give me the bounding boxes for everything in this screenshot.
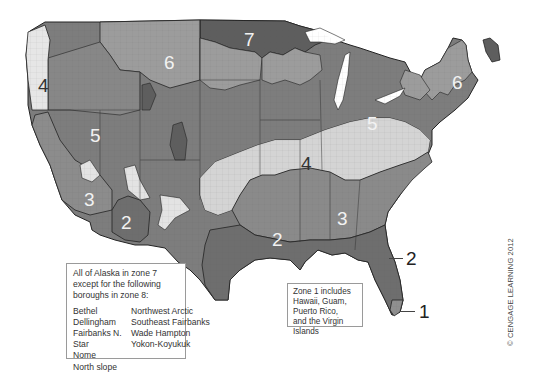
zone-label-5-east: 5 bbox=[367, 114, 378, 133]
callout-label-zone-2: 2 bbox=[406, 249, 417, 268]
borough-item: Dellingham bbox=[73, 317, 131, 328]
zone-label-2-arizona: 2 bbox=[121, 213, 132, 232]
alaska-note-heading-3: boroughs in zone 8: bbox=[73, 290, 179, 301]
borough-list-col-2: Northwest Arctic Southeast Fairbanks Wad… bbox=[131, 306, 210, 373]
zone-label-7-north: 7 bbox=[244, 30, 255, 49]
zone-label-6-west: 6 bbox=[164, 53, 175, 72]
zone-label-4-central: 4 bbox=[301, 154, 312, 173]
borough-item: Southeast Fairbanks bbox=[131, 317, 210, 328]
zone-label-6-northeast: 6 bbox=[452, 73, 463, 92]
borough-item: Yokon-Koyukuk bbox=[131, 339, 210, 350]
borough-item: Bethel bbox=[73, 306, 131, 317]
alaska-note-heading-1: All of Alaska in zone 7 bbox=[73, 268, 179, 279]
zone1-note-line: Puerto Rico, bbox=[293, 307, 357, 317]
borough-item: Northwest Arctic bbox=[131, 306, 210, 317]
borough-item: Fairbanks N. Star bbox=[73, 328, 131, 350]
callout-label-zone-1: 1 bbox=[419, 302, 430, 321]
callout-line-zone-1 bbox=[400, 311, 415, 312]
callout-line-zone-2 bbox=[389, 258, 403, 259]
zone-label-3-southwest: 3 bbox=[84, 190, 95, 209]
zone-label-3-southeast: 3 bbox=[337, 209, 348, 228]
zone-label-2-texas: 2 bbox=[272, 230, 283, 249]
zone-label-5-west: 5 bbox=[90, 126, 101, 145]
zone1-note-box: Zone 1 includes Hawaii, Guam, Puerto Ric… bbox=[287, 283, 363, 327]
borough-item: North slope bbox=[73, 362, 131, 373]
zone1-note-line: Zone 1 includes bbox=[293, 287, 357, 297]
zone-label-4-northwest: 4 bbox=[38, 76, 49, 95]
copyright-text: © CENGAGE LEARNING 2012 bbox=[506, 238, 515, 346]
borough-item: Nome bbox=[73, 350, 131, 361]
zone1-note-line: Hawaii, Guam, bbox=[293, 297, 357, 307]
zone-7-maine bbox=[483, 38, 500, 62]
alaska-note-box: All of Alaska in zone 7 except for the f… bbox=[66, 263, 186, 359]
borough-item: Wade Hampton bbox=[131, 328, 210, 339]
borough-list-col-1: Bethel Dellingham Fairbanks N. Star Nome… bbox=[73, 306, 131, 373]
alaska-note-heading-2: except for the following bbox=[73, 279, 179, 290]
zone1-note-line: and the Virgin Islands bbox=[293, 317, 357, 337]
